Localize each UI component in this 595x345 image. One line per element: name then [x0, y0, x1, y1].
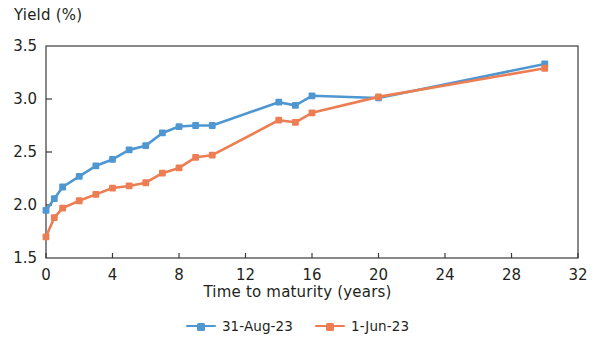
- series-marker-1: [176, 165, 183, 172]
- series-marker-1: [159, 170, 166, 177]
- y-tick-label: 2.5: [13, 143, 37, 161]
- series-marker-1: [292, 119, 299, 126]
- x-tick-label: 24: [435, 266, 454, 284]
- y-tick-label: 3.0: [13, 90, 37, 108]
- legend-item-0[interactable]: 31-Aug-23: [186, 318, 293, 334]
- x-tick-label: 4: [108, 266, 118, 284]
- legend-marker: [197, 323, 205, 331]
- series-marker-1: [375, 93, 382, 100]
- x-tick-label: 16: [302, 266, 321, 284]
- series-marker-0: [43, 207, 50, 214]
- series-marker-0: [51, 195, 58, 202]
- series-marker-1: [51, 214, 58, 221]
- legend-swatch-icon: [186, 320, 216, 332]
- x-axis-title: Time to maturity (years): [0, 283, 595, 301]
- x-tick-label: 12: [236, 266, 255, 284]
- series-marker-0: [76, 173, 83, 180]
- series-marker-1: [92, 191, 99, 198]
- series-marker-1: [126, 183, 133, 190]
- series-marker-0: [292, 102, 299, 109]
- y-tick-label: 2.0: [13, 196, 37, 214]
- series-marker-1: [192, 154, 199, 161]
- series-marker-1: [109, 185, 116, 192]
- series-marker-0: [192, 122, 199, 129]
- legend-label: 31-Aug-23: [222, 318, 293, 334]
- series-marker-1: [59, 205, 66, 212]
- series-marker-0: [159, 130, 166, 137]
- series-marker-0: [176, 123, 183, 130]
- chart-figure: Yield (%) 0481216202428321.52.02.53.03.5…: [0, 0, 595, 345]
- y-tick-label: 1.5: [13, 249, 37, 267]
- series-marker-0: [109, 156, 116, 163]
- legend-label: 1-Jun-23: [351, 318, 409, 334]
- series-marker-0: [209, 122, 216, 129]
- chart-legend: 31-Aug-231-Jun-23: [0, 318, 595, 334]
- x-tick-label: 8: [174, 266, 184, 284]
- series-marker-0: [92, 162, 99, 169]
- series-marker-1: [275, 117, 282, 124]
- x-tick-label: 0: [41, 266, 51, 284]
- series-marker-1: [309, 109, 316, 116]
- series-marker-0: [275, 99, 282, 106]
- series-marker-0: [126, 146, 133, 153]
- series-marker-1: [43, 233, 50, 240]
- series-marker-1: [76, 197, 83, 204]
- series-marker-1: [209, 152, 216, 159]
- series-marker-0: [309, 92, 316, 99]
- series-marker-1: [541, 65, 548, 72]
- series-line-0: [46, 64, 545, 210]
- series-marker-0: [142, 142, 149, 149]
- series-marker-1: [142, 179, 149, 186]
- x-tick-label: 32: [568, 266, 587, 284]
- legend-marker: [326, 323, 334, 331]
- x-tick-label: 20: [369, 266, 388, 284]
- legend-item-1[interactable]: 1-Jun-23: [315, 318, 409, 334]
- series-marker-0: [59, 184, 66, 191]
- series-line-1: [46, 68, 545, 237]
- legend-swatch-icon: [315, 320, 345, 332]
- x-tick-label: 28: [502, 266, 521, 284]
- y-tick-label: 3.5: [13, 37, 37, 55]
